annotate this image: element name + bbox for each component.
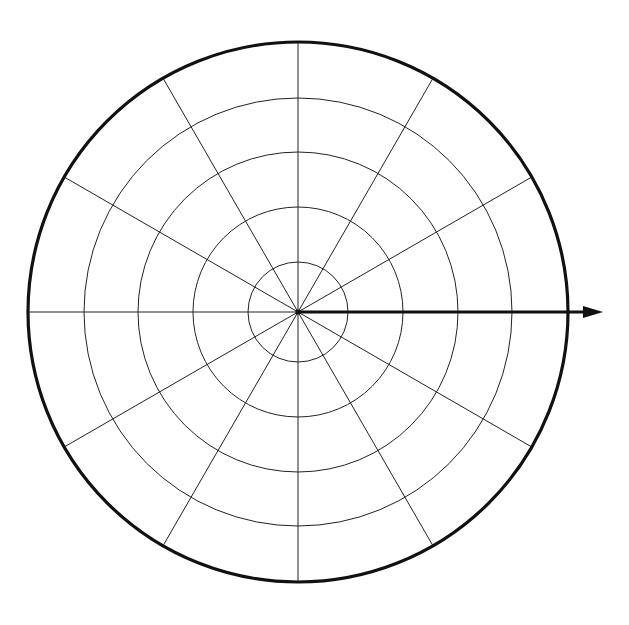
- spoke-120deg: [163, 78, 298, 312]
- polar-axis-arrow: [296, 306, 604, 318]
- spoke-330deg: [298, 312, 532, 447]
- spoke-150deg: [64, 177, 298, 312]
- spoke-300deg: [298, 312, 433, 546]
- polar-grid-diagram: [0, 0, 629, 625]
- arrowhead-icon: [583, 306, 603, 318]
- spoke-60deg: [298, 78, 433, 312]
- spoke-30deg: [298, 177, 532, 312]
- pole-point: [296, 310, 301, 315]
- spoke-210deg: [64, 312, 298, 447]
- polar-grid-canvas: [0, 0, 629, 625]
- spoke-240deg: [163, 312, 298, 546]
